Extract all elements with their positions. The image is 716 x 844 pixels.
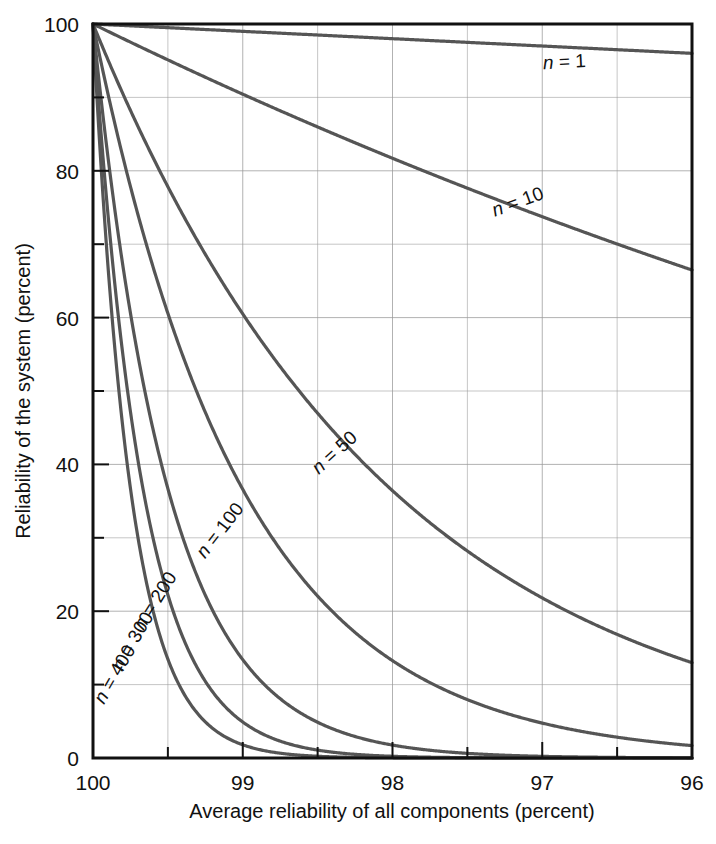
- y-tick-label: 60: [56, 307, 79, 330]
- x-axis-tick-labels: 10099989796: [75, 771, 703, 794]
- curve-label-n-1: n = 1: [542, 50, 586, 73]
- y-tick-label: 40: [56, 453, 79, 476]
- curve-label-n-100: n = 100: [192, 498, 248, 561]
- x-tick-label: 99: [231, 771, 254, 794]
- y-tick-label: 20: [56, 600, 79, 623]
- reliability-chart-figure: 020406080100 10099989796 n = 1n = 10n = …: [0, 0, 716, 844]
- y-tick-label: 80: [56, 160, 79, 183]
- y-tick-label: 100: [44, 13, 79, 36]
- x-axis-title: Average reliability of all components (p…: [189, 800, 594, 822]
- x-tick-label: 98: [381, 771, 404, 794]
- y-tick-label: 0: [67, 747, 79, 770]
- x-tick-label: 97: [531, 771, 554, 794]
- curve-inline-labels: n = 1n = 10n = 50n = 100n = 200n = 300n …: [89, 50, 586, 707]
- x-tick-label: 100: [75, 771, 110, 794]
- y-axis-tick-labels: 020406080100: [44, 13, 79, 770]
- y-axis-title: Reliability of the system (percent): [12, 243, 34, 539]
- x-tick-label: 96: [680, 771, 703, 794]
- chart-svg: 020406080100 10099989796 n = 1n = 10n = …: [0, 0, 716, 844]
